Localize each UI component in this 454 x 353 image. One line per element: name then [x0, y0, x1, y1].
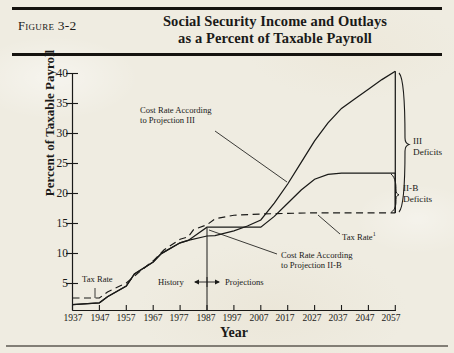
- cost-rate-iib-label: Cost Rate According to Projection II-B: [281, 250, 353, 270]
- chart-plot-area: Percent of Taxable Payroll Year 40 35 30…: [0, 0, 454, 353]
- iii-deficits-label-line-2: Deficits: [413, 147, 442, 158]
- cost-rate-iii-label-line-1: Cost Rate According: [140, 105, 212, 115]
- iib-deficits-label-line-2: Deficits: [403, 194, 432, 205]
- cost-rate-iib-label-line-2: to Projection II-B: [281, 260, 353, 270]
- cost-rate-iii-label: Cost Rate According to Projection III: [140, 105, 212, 125]
- cost-rate-iii-label-line-2: to Projection III: [140, 115, 212, 125]
- iib-deficits-label-line-1: II-B: [403, 183, 432, 194]
- iii-deficits-label-line-1: III: [413, 136, 442, 147]
- tax-rate-left-label: Tax Rate: [82, 274, 113, 284]
- leader-line-cost-rate-iii: [215, 131, 287, 182]
- tax-rate-footnote-marker: 1: [373, 231, 376, 237]
- leader-line-tax-rate-right: [318, 215, 340, 234]
- iib-deficits-label: II-B Deficits: [403, 183, 432, 204]
- figure-page: Figure 3-2 Social Security Income and Ou…: [0, 0, 454, 353]
- history-projection-arrow-icon: [194, 277, 220, 287]
- x-tick-marks: [73, 305, 396, 311]
- chart-svg: [0, 0, 454, 353]
- leader-line-cost-rate-iib: [209, 230, 277, 254]
- cost-rate-iib-label-line-1: Cost Rate According: [281, 250, 353, 260]
- tax-rate-right-label: Tax Rate1: [342, 229, 376, 242]
- iii-deficits-label: III Deficits: [413, 136, 442, 157]
- projections-label: Projections: [225, 277, 264, 287]
- history-label: History: [158, 277, 184, 287]
- tax-rate-right-label-text: Tax Rate: [342, 232, 373, 242]
